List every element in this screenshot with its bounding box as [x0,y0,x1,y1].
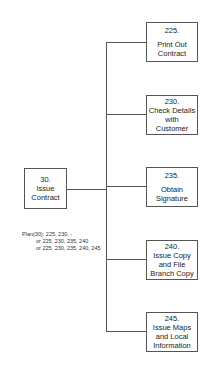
subtask-label: Issue Maps and Local Information [153,323,191,350]
plan-line-3: or 225, 230, 235, 240, 245 [22,245,101,252]
branch-line-225 [106,42,146,43]
subtask-number: 230. [165,97,180,106]
root-task-number: 30. [40,175,50,184]
subtask-number: 225. [165,26,180,35]
branch-line-245 [106,331,146,332]
trunk-line [106,42,107,332]
plan-text: Plan(30): 225, 230, - or 225, 230, 235, … [22,231,101,252]
root-connector [67,189,107,190]
subtask-box-225: 225. Print Out Contract [146,22,198,62]
branch-line-240 [106,259,146,260]
subtask-box-235: 235. Obtain Signature [146,167,198,207]
root-task-box: 30. Issue Contract [24,168,67,209]
subtask-box-240: 240. Issue Copy and File Branch Copy [146,240,198,280]
plan-line-1: Plan(30): 225, 230, - [22,231,101,238]
subtask-label: Check Details with Customer [149,106,195,133]
subtask-number: 235. [165,171,180,180]
subtask-number: 245. [165,314,180,323]
subtask-box-245: 245. Issue Maps and Local Information [146,312,198,352]
root-task-label: Issue Contract [31,184,59,202]
branch-line-230 [106,114,146,115]
subtask-label: Obtain Signature [156,185,188,203]
branch-line-235 [106,186,146,187]
subtask-box-230: 230. Check Details with Customer [146,95,198,135]
subtask-label: Issue Copy and File Branch Copy [150,251,193,278]
subtask-number: 240. [165,242,180,251]
subtask-label: Print Out Contract [157,40,187,58]
plan-line-2: or 225, 230, 235, 240 [22,238,101,245]
